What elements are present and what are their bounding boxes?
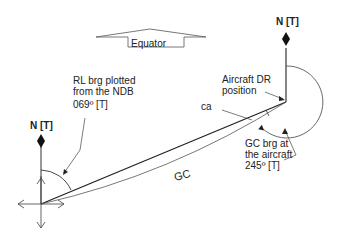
- gc-bearing-arc: [262, 66, 323, 138]
- rl-label-leader: [64, 118, 85, 173]
- ndb-north-label: N [T]: [30, 120, 53, 131]
- rl-angle-arc: [41, 170, 71, 190]
- aircraft-north-diamond-icon: [282, 32, 290, 46]
- equator-label: Equator: [131, 38, 166, 49]
- aircraft-north-label: N [T]: [276, 16, 299, 27]
- rl-brg-label: RL brg plotted from the NDB 069º [T]: [73, 75, 135, 110]
- aircraft-dr-label: Aircraft DR position: [222, 74, 271, 96]
- ndb-north-diamond-icon: [37, 134, 45, 148]
- navigation-diagram: Equator N [T] N [T] RL brg plotted from …: [0, 0, 338, 241]
- ca-label: ca: [201, 101, 212, 112]
- gc-brg-label: GC brg at the aircraft 245º [T]: [245, 138, 292, 171]
- ca-label-leader: [222, 110, 252, 120]
